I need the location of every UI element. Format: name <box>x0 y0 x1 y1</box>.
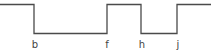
edge-label-b: b <box>32 40 38 50</box>
waveform-line <box>0 5 211 34</box>
waveform-diagram: b f h j <box>0 0 216 52</box>
edge-label-h: h <box>139 40 145 50</box>
edge-label-f: f <box>105 40 109 50</box>
edge-label-j: j <box>177 40 180 50</box>
